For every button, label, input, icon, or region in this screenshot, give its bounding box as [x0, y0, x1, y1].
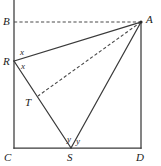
segment-AT: [38, 22, 141, 96]
angle-label-y-left: y: [67, 135, 71, 144]
vertex-label-A: A: [146, 14, 153, 25]
angle-label-y-right: y: [76, 137, 80, 146]
vertex-label-S: S: [67, 152, 73, 163]
vertex-label-B: B: [3, 16, 10, 27]
figure-canvas: [0, 0, 161, 166]
segment-RS: [14, 61, 71, 148]
vertex-label-D: D: [136, 152, 144, 163]
vertex-label-R: R: [3, 56, 10, 67]
dashed-segments: [14, 22, 141, 96]
vertex-label-T: T: [25, 97, 31, 108]
vertex-label-C: C: [4, 152, 11, 163]
vertex-dot-A: [139, 20, 142, 23]
angle-label-x-upper: x: [20, 48, 24, 57]
angle-label-x-lower: x: [21, 62, 25, 71]
geometry-figure: B A R T C S D x x y y: [0, 0, 161, 166]
